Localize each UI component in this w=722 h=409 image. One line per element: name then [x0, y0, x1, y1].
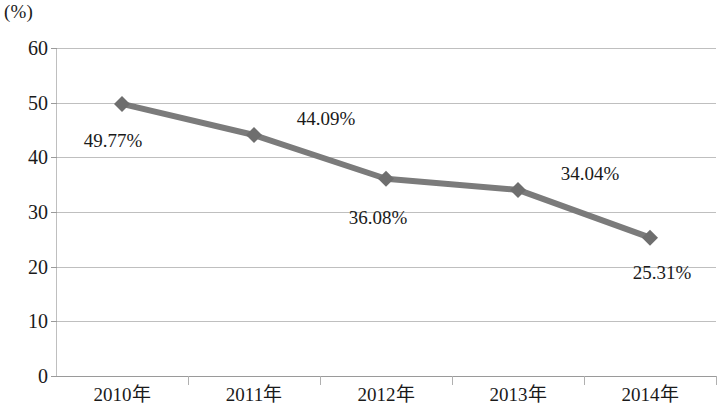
data-point-marker: [246, 127, 262, 143]
data-point-label: 25.31%: [633, 262, 692, 281]
data-point-label: 49.77%: [84, 130, 143, 149]
data-point-marker: [114, 96, 130, 112]
x-tick-label: 2012年: [358, 385, 415, 404]
line-chart: (%) 0102030405060 49.77%44.09%36.08%34.0…: [0, 0, 722, 409]
x-tick-label: 2013年: [490, 385, 547, 404]
data-point-marker: [642, 230, 658, 246]
data-point-label: 44.09%: [297, 108, 356, 127]
data-point-marker: [378, 171, 394, 187]
x-tick-label: 2010年: [94, 385, 151, 404]
x-tick-label: 2011年: [226, 385, 282, 404]
data-point-label: 34.04%: [561, 163, 620, 182]
x-tick-label: 2014年: [622, 385, 679, 404]
series-layer: [0, 0, 722, 409]
data-point-marker: [510, 182, 526, 198]
data-point-label: 36.08%: [349, 207, 408, 226]
